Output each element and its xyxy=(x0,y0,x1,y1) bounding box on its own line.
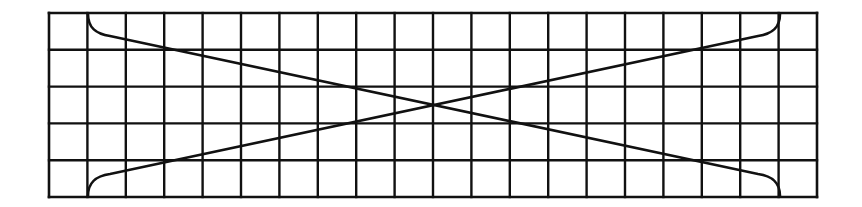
grid-diagram xyxy=(0,0,862,207)
